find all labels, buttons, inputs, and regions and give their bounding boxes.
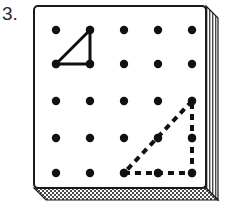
problem-number-label: 3.	[2, 3, 18, 25]
peg	[188, 60, 196, 68]
peg	[52, 26, 60, 34]
peg	[154, 26, 162, 34]
geoboard-panel	[32, 4, 229, 206]
peg	[86, 169, 94, 177]
peg	[52, 134, 60, 142]
peg	[188, 26, 196, 34]
board-shadow-right	[206, 6, 218, 200]
peg	[188, 134, 196, 142]
peg	[52, 169, 60, 177]
board-frame	[34, 6, 206, 188]
peg	[154, 97, 162, 105]
peg	[120, 134, 128, 142]
peg	[120, 26, 128, 34]
peg	[52, 60, 60, 68]
peg	[120, 60, 128, 68]
peg	[154, 60, 162, 68]
peg	[86, 134, 94, 142]
peg	[86, 60, 94, 68]
geoboard-figure: 3.	[0, 0, 229, 207]
peg	[120, 97, 128, 105]
peg	[154, 134, 162, 142]
peg	[154, 169, 162, 177]
board-shadow-bottom	[34, 188, 218, 200]
peg	[188, 169, 196, 177]
peg	[86, 26, 94, 34]
geoboard-canvas	[32, 4, 229, 206]
peg	[120, 169, 128, 177]
peg	[86, 97, 94, 105]
peg	[188, 97, 196, 105]
peg	[52, 97, 60, 105]
